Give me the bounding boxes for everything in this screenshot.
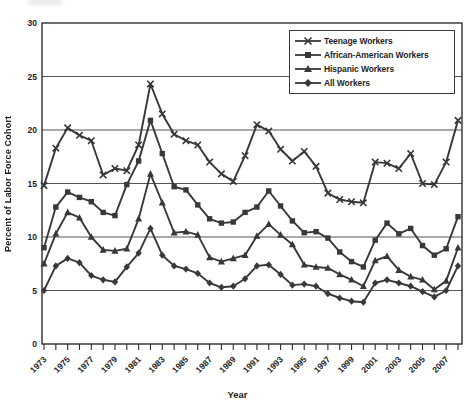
square-marker-icon <box>295 50 321 60</box>
square-marker <box>183 187 188 192</box>
y-tick-label-20: 20 <box>28 125 38 135</box>
square-marker <box>290 218 295 223</box>
legend: Teenage Workers African-American Workers… <box>289 30 455 94</box>
triangle-marker <box>64 209 71 216</box>
y-tick-label-5: 5 <box>32 286 37 296</box>
square-marker <box>195 202 200 207</box>
square-marker <box>231 219 236 224</box>
x-tick-label-2001: 2001 <box>359 354 380 375</box>
diamond-marker <box>348 298 354 305</box>
x-tick-label-1985: 1985 <box>170 354 191 375</box>
x-tick-label-1979: 1979 <box>99 354 120 375</box>
x-tick-label-1975: 1975 <box>52 354 73 375</box>
square-marker <box>148 118 153 123</box>
x-tick-label-1997: 1997 <box>312 354 333 375</box>
figure-page: 0510152025301973197519771979198119831985… <box>0 0 475 404</box>
square-marker <box>207 216 212 221</box>
square-marker <box>171 184 176 189</box>
square-marker <box>242 210 247 215</box>
triangle-marker <box>265 220 272 227</box>
x-tick-label-1977: 1977 <box>75 354 96 375</box>
square-marker <box>349 259 354 264</box>
square-marker <box>420 243 425 248</box>
legend-label: African-American Workers <box>324 50 429 60</box>
x-tick-label-2007: 2007 <box>430 354 451 375</box>
legend-item-african-american: African-American Workers <box>295 48 450 62</box>
legend-label: All Workers <box>324 78 370 88</box>
square-marker <box>136 158 141 163</box>
x-cross-marker <box>266 128 272 134</box>
diamond-marker <box>407 283 413 290</box>
y-tick-label-30: 30 <box>28 18 38 28</box>
triangle-marker-icon <box>295 64 321 74</box>
x-tick-label-1995: 1995 <box>288 354 309 375</box>
legend-item-hispanic: Hispanic Workers <box>295 62 450 76</box>
x-tick-label-1993: 1993 <box>265 354 286 375</box>
square-marker <box>455 214 460 219</box>
square-marker <box>384 220 389 225</box>
x-tick-label-1991: 1991 <box>241 354 262 375</box>
x-cross-marker <box>218 171 224 177</box>
x-tick-label-1987: 1987 <box>194 354 215 375</box>
triangle-marker <box>443 277 450 284</box>
square-marker <box>302 230 307 235</box>
x-cross-marker <box>301 148 307 154</box>
square-marker <box>325 235 330 240</box>
square-marker <box>219 220 224 225</box>
square-marker <box>124 182 129 187</box>
square-marker <box>408 226 413 231</box>
x-cross-marker-icon <box>295 36 321 46</box>
y-tick-label-0: 0 <box>32 339 37 349</box>
square-marker <box>361 264 366 269</box>
x-tick-label-2003: 2003 <box>383 354 404 375</box>
square-marker <box>112 213 117 218</box>
square-marker <box>396 231 401 236</box>
square-marker <box>278 203 283 208</box>
square-marker <box>373 238 378 243</box>
x-tick-label-1981: 1981 <box>123 354 144 375</box>
x-tick-label-1989: 1989 <box>217 354 238 375</box>
legend-label: Teenage Workers <box>324 36 393 46</box>
x-cross-marker <box>277 146 283 152</box>
x-cross-marker <box>171 131 177 137</box>
diamond-marker <box>384 276 390 283</box>
diamond-marker <box>431 293 437 300</box>
square-marker <box>65 189 70 194</box>
triangle-marker <box>384 252 391 259</box>
square-marker <box>432 252 437 257</box>
scan-artifact <box>28 0 62 4</box>
square-marker <box>41 245 46 250</box>
x-tick-label-1999: 1999 <box>336 354 357 375</box>
triangle-marker <box>135 215 142 222</box>
x-axis-title: Year <box>0 389 475 400</box>
square-marker <box>89 199 94 204</box>
x-cross-marker <box>289 158 295 164</box>
square-marker <box>254 204 259 209</box>
square-marker <box>53 204 58 209</box>
x-tick-label-1983: 1983 <box>146 354 167 375</box>
square-marker <box>313 229 318 234</box>
square-marker <box>443 246 448 251</box>
diamond-marker <box>337 294 343 301</box>
triangle-marker <box>455 244 462 251</box>
y-tick-label-10: 10 <box>28 232 38 242</box>
square-marker <box>266 188 271 193</box>
diamond-marker <box>419 288 425 295</box>
square-marker <box>100 210 105 215</box>
diamond-marker <box>183 266 189 273</box>
x-cross-marker <box>206 159 212 165</box>
diamond-marker-icon <box>295 78 321 88</box>
triangle-marker <box>159 199 166 206</box>
y-tick-label-25: 25 <box>28 72 38 82</box>
y-axis-title: Percent of Labor Force Cohort <box>1 64 15 304</box>
square-marker <box>337 249 342 254</box>
diamond-marker <box>218 284 224 291</box>
legend-label: Hispanic Workers <box>324 64 394 74</box>
series-line-0 <box>44 84 458 203</box>
legend-item-teenage: Teenage Workers <box>295 34 450 48</box>
diamond-marker <box>396 279 402 286</box>
diamond-marker <box>301 280 307 287</box>
y-tick-label-15: 15 <box>28 179 38 189</box>
square-marker <box>77 195 82 200</box>
triangle-marker <box>147 170 154 177</box>
